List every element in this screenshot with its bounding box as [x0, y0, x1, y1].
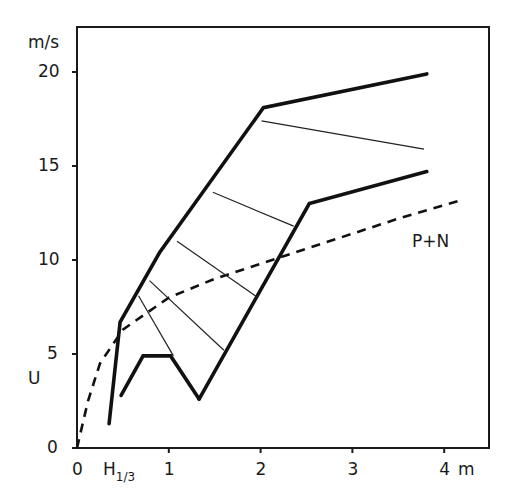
chart-canvas [0, 0, 515, 504]
rung-line [139, 296, 174, 356]
series-lower-boundary-left [121, 356, 199, 399]
series-upper-right-thin-line [262, 121, 425, 149]
y-tick-label: 15 [38, 157, 60, 174]
rung-line [177, 241, 258, 297]
x-tick-label: 2 [256, 461, 267, 478]
series-lower-boundary-right [199, 172, 427, 400]
y-tick-label: 10 [38, 251, 60, 268]
x-tick-label: 3 [347, 461, 358, 478]
y-tick-label: 0 [47, 439, 58, 456]
rung-line [213, 192, 294, 226]
series-upper-boundary [109, 74, 427, 424]
curve-label-pn: P+N [412, 233, 449, 250]
x-axis-unit: m [458, 461, 475, 478]
y-tick-label: 5 [47, 345, 58, 362]
y-axis-unit: m/s [28, 34, 59, 51]
x-axis-label-sub: 1/3 [116, 470, 135, 484]
x-tick-label: 4 [439, 461, 450, 478]
series-p-n [77, 200, 463, 448]
rung-line [150, 281, 224, 351]
y-tick-label: 20 [38, 63, 60, 80]
y-axis-label: U [28, 370, 40, 387]
x-axis-label-main: H [103, 459, 116, 479]
x-tick-label: 1 [164, 461, 175, 478]
x-tick-label: 0 [72, 461, 83, 478]
x-axis-label: H1/3 [103, 461, 135, 483]
